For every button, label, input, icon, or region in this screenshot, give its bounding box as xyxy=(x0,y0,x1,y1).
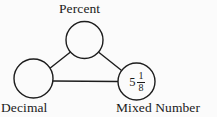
node-label-mixed-number: Mixed Number xyxy=(116,101,200,115)
edge-decimal-mixed-number xyxy=(53,81,118,82)
whole-number-part: 5 xyxy=(129,76,135,89)
node-circle-decimal[interactable] xyxy=(14,59,53,98)
node-value-mixed-number: 5 1 8 xyxy=(120,68,154,96)
fraction-denominator: 8 xyxy=(137,83,144,94)
edge-decimal-percent xyxy=(49,52,71,69)
fraction: 1 8 xyxy=(137,71,145,94)
fraction-numerator: 1 xyxy=(137,71,144,82)
diagram-container: 5 1 8 Percent Decimal Mixed Number xyxy=(0,0,217,117)
node-circle-percent[interactable] xyxy=(66,22,103,59)
node-label-decimal: Decimal xyxy=(1,101,47,115)
node-label-percent: Percent xyxy=(59,2,100,16)
edge-percent-mixed-number xyxy=(99,53,121,71)
